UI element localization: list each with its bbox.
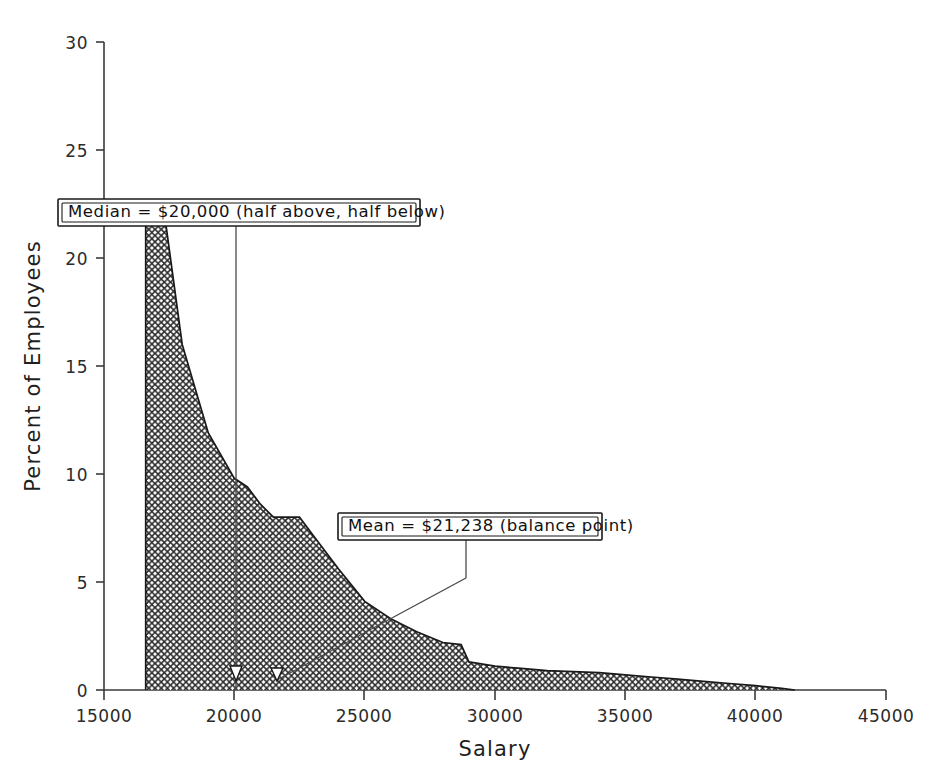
median-callout[interactable]: Median = $20,000 (half above, half below… — [58, 199, 446, 226]
y-tick-label-25: 25 — [65, 141, 88, 161]
x-tick-label-20000: 20000 — [206, 706, 263, 726]
x-tick-label-30000: 30000 — [467, 706, 524, 726]
y-tick-label-5: 5 — [77, 573, 88, 593]
distribution-area — [146, 211, 795, 691]
median-callout-label: Median = $20,000 (half above, half below… — [68, 202, 446, 221]
x-axis: 15000 20000 25000 30000 35000 40000 4500… — [76, 690, 915, 726]
y-tick-label-20: 20 — [65, 249, 88, 269]
y-tick-label-15: 15 — [65, 357, 88, 377]
x-axis-title: Salary — [458, 737, 531, 761]
x-tick-label-35000: 35000 — [597, 706, 654, 726]
y-axis-title: Percent of Employees — [21, 240, 45, 492]
y-axis-ticks — [96, 42, 104, 690]
x-axis-ticks — [104, 690, 886, 700]
salary-distribution-chart: 30 25 20 15 10 5 0 15000 20000 25000 300… — [0, 0, 939, 783]
mean-callout[interactable]: Mean = $21,238 (balance point) — [338, 513, 634, 540]
mean-callout-label: Mean = $21,238 (balance point) — [348, 516, 634, 535]
x-tick-label-15000: 15000 — [76, 706, 133, 726]
y-axis: 30 25 20 15 10 5 0 — [65, 33, 104, 701]
x-tick-label-25000: 25000 — [336, 706, 393, 726]
y-tick-label-10: 10 — [65, 465, 88, 485]
x-tick-label-40000: 40000 — [727, 706, 784, 726]
chart-canvas: 30 25 20 15 10 5 0 15000 20000 25000 300… — [0, 0, 939, 783]
x-tick-label-45000: 45000 — [858, 706, 915, 726]
y-tick-label-30: 30 — [65, 33, 88, 53]
y-tick-label-0: 0 — [77, 681, 88, 701]
